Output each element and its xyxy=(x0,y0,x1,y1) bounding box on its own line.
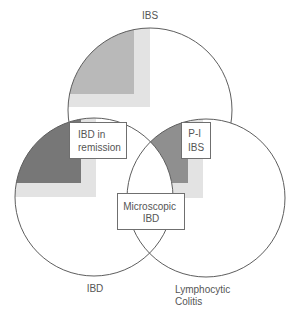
ibs-dark-shade xyxy=(60,20,134,94)
microscopic-ibd-line2: IBD xyxy=(143,213,160,224)
ibs-label: IBS xyxy=(142,10,158,21)
ibd-label: IBD xyxy=(87,283,104,294)
ibd-in-remission-box: IBD in remission xyxy=(70,123,127,159)
microscopic-ibd-line1: Microscopic xyxy=(123,201,176,212)
lymphocytic-colitis-label-line1: Lymphocytic xyxy=(175,284,230,295)
pi-ibs-line1: P-I xyxy=(188,128,201,139)
post-infectious-ibs-box: P-I IBS xyxy=(182,123,211,159)
ibd-in-remission-line2: remission xyxy=(78,142,121,153)
lymphocytic-colitis-label-line2: Colitis xyxy=(175,296,202,307)
lymphocytic-colitis-label: Lymphocytic Colitis xyxy=(175,284,233,307)
pi-ibs-line2: IBS xyxy=(188,142,204,153)
ibd-in-remission-line1: IBD in xyxy=(78,129,105,140)
microscopic-ibd-box: Microscopic IBD xyxy=(118,194,185,230)
venn-diagram: IBS IBD Lymphocytic Colitis IBD in remis… xyxy=(0,0,295,319)
